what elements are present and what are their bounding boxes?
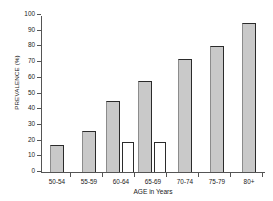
y-tick-label-10: 10 [28,151,35,158]
bar-65-69-open [154,142,166,172]
y-tick-50: 50 [37,93,41,94]
bar-50-54-shaded [50,145,64,172]
x-tick-label-65-69: 65-69 [145,178,161,185]
y-tick-10: 10 [37,155,41,156]
x-tick-75-79 [230,173,231,177]
y-axis-title: PREVALENCE (%) [13,18,20,148]
y-tick-label-100: 100 [24,10,35,17]
y-tick-60: 60 [37,77,41,78]
bar-chart: PREVALENCE (%) 0102030405060708090100 50… [0,0,273,201]
y-tick-40: 40 [37,108,41,109]
y-tick-label-30: 30 [28,120,35,127]
y-tick-100: 100 [37,14,41,15]
bar-60-64-shaded [106,101,120,172]
plot-area: 0102030405060708090100 50-5455-5960-6465… [41,16,265,173]
bar-70-74-shaded [178,59,192,172]
x-tick-label-50-54: 50-54 [49,178,65,185]
y-tick-label-40: 40 [28,104,35,111]
y-tick-0: 0 [37,171,41,172]
y-tick-80: 80 [37,45,41,46]
y-tick-label-70: 70 [28,57,35,64]
y-tick-label-20: 20 [28,136,35,143]
y-tick-20: 20 [37,140,41,141]
x-tick-label-70-74: 70-74 [177,178,193,185]
bar-55-59-shaded [82,131,96,172]
y-tick-30: 30 [37,124,41,125]
y-tick-label-50: 50 [28,89,35,96]
bar-75-79-shaded [210,46,224,172]
x-tick-label-75-79: 75-79 [209,178,225,185]
x-tick-label-60-64: 60-64 [113,178,129,185]
x-tick-label-55-59: 55-59 [81,178,97,185]
x-axis-title: AGE in Years [41,188,265,195]
y-tick-label-90: 90 [28,26,35,33]
x-tick-60-64 [134,173,135,177]
y-tick-70: 70 [37,61,41,62]
y-tick-90: 90 [37,30,41,31]
x-tick-65-69 [166,173,167,177]
y-tick-label-60: 60 [28,73,35,80]
x-tick-55-59 [102,173,103,177]
x-tick-80+ [262,173,263,177]
x-tick-label-80+: 80+ [244,178,255,185]
bar-80+-shaded [242,23,256,172]
x-tick-50-54 [70,173,71,177]
y-axis-line [41,16,42,173]
y-tick-label-80: 80 [28,41,35,48]
x-tick-70-74 [198,173,199,177]
bar-60-64-open [122,142,134,172]
bar-65-69-shaded [138,81,152,172]
y-tick-label-0: 0 [31,167,35,174]
